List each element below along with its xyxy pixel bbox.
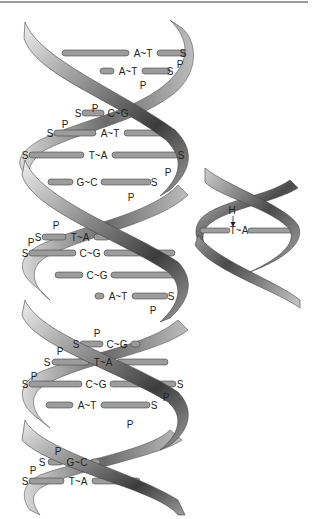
base-rod-left	[62, 50, 129, 56]
inset-base-pair-rod-left	[200, 228, 230, 233]
phosphate-label: P	[30, 465, 37, 476]
base-rod-right	[132, 293, 168, 299]
sugar-label: S	[180, 48, 187, 59]
phosphate-label: P	[92, 103, 99, 114]
phosphate-label: P	[163, 392, 170, 403]
base-rod-right	[111, 272, 176, 278]
base-pair-label: A~T	[134, 48, 153, 59]
sugar-label: S	[75, 108, 82, 119]
base-pair	[46, 402, 150, 408]
phosphate-label: P	[128, 192, 135, 203]
base-rod-left	[29, 381, 82, 387]
sugar-label: S	[167, 66, 174, 77]
sugar-label: S	[178, 150, 185, 161]
sugar-label: S	[151, 400, 158, 411]
base-rod-left	[48, 179, 73, 185]
base-rod-right	[101, 402, 150, 408]
base-rod-right	[131, 341, 140, 347]
base-rod-left	[29, 250, 76, 256]
hydrogen-bond-inset: H T~A	[195, 168, 300, 308]
phosphate-label: P	[177, 59, 184, 70]
phosphate-label: P	[55, 446, 62, 457]
base-pair	[55, 272, 176, 278]
sugar-label: S	[177, 379, 184, 390]
base-pair	[95, 293, 168, 299]
sugar-label: S	[151, 177, 158, 188]
base-rod-left	[29, 152, 84, 158]
base-pair	[48, 179, 151, 185]
sugar-label: S	[22, 150, 29, 161]
base-pair-label: G~C	[77, 177, 98, 188]
sugar-label: S	[168, 291, 175, 302]
base-pair-label: A~T	[78, 400, 97, 411]
base-pair	[62, 50, 185, 56]
dna-double-helix-diagram: A~TSA~TSC~GSA~TST~ASSG~CST~ASC~GSC~GA~TS…	[0, 0, 314, 519]
phosphate-label: P	[94, 328, 101, 339]
base-pair-label: C~G	[108, 108, 129, 119]
base-rod-left	[95, 293, 104, 299]
sugar-label: S	[35, 232, 42, 243]
base-pair-label: C~G	[80, 248, 101, 259]
sugar-label: S	[73, 339, 80, 350]
base-pair-label: G~C	[67, 457, 88, 468]
phosphate-label: P	[31, 371, 38, 382]
phosphate-label: P	[53, 220, 60, 231]
base-pair-label: T~A	[94, 357, 113, 368]
base-pair-label: A~T	[101, 128, 120, 139]
phosphate-label: P	[62, 119, 69, 130]
phosphate-label: P	[28, 237, 35, 248]
sugar-label: S	[47, 128, 54, 139]
base-pair-label: A~T	[109, 291, 128, 302]
base-rod-right	[101, 179, 151, 185]
sugar-label: S	[22, 248, 29, 259]
base-pair-label: A~T	[119, 66, 138, 77]
base-rod-left	[29, 478, 64, 484]
base-rod-right	[112, 152, 179, 158]
sugar-label: S	[44, 357, 51, 368]
phosphate-label: P	[57, 346, 64, 357]
base-rod-left	[100, 68, 114, 74]
base-pair-label: T~A	[71, 232, 90, 243]
sugar-label: S	[22, 476, 29, 487]
phosphate-label: P	[127, 419, 134, 430]
sugar-label: S	[22, 379, 29, 390]
base-rod-left	[55, 272, 83, 278]
base-rod-left	[54, 130, 96, 136]
phosphate-label: P	[140, 80, 147, 91]
base-rod-left	[46, 402, 73, 408]
phosphate-label: P	[165, 167, 172, 178]
base-pair-label: T~A	[89, 150, 108, 161]
base-pair-label: T~A	[69, 476, 88, 487]
hydrogen-label: H	[228, 205, 235, 216]
inset-base-pair-label: T~A	[230, 225, 249, 236]
base-pair-label: C~G	[107, 339, 128, 350]
phosphate-label: P	[150, 305, 157, 316]
base-pair-label: C~G	[87, 270, 108, 281]
base-rod-left	[42, 234, 66, 240]
sugar-label: S	[39, 457, 46, 468]
base-pair-label: C~G	[86, 379, 107, 390]
